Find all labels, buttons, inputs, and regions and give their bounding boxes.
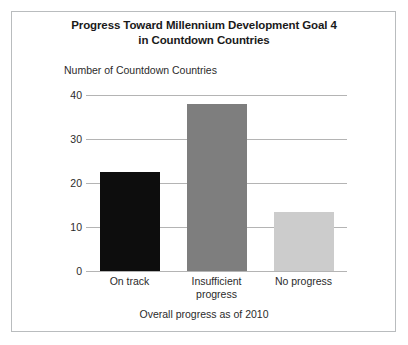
x-tick-label-line: No progress (260, 275, 347, 288)
footer-caption: Overall progress as of 2010 (24, 308, 384, 320)
x-tick-label: On track (86, 275, 173, 288)
x-tick-label: Insufficientprogress (173, 275, 260, 300)
x-tick-label-line: On track (86, 275, 173, 288)
x-tick-label: No progress (260, 275, 347, 288)
bar-no-progress[interactable] (274, 212, 334, 271)
y-axis-title: Number of Countdown Countries (64, 64, 217, 76)
bar-on-track[interactable] (100, 172, 160, 271)
chart-title: Progress Toward Millennium Development G… (24, 18, 384, 48)
gridline-0 (86, 271, 347, 272)
y-tick-label: 0 (48, 265, 82, 277)
x-tick-label-line: Insufficient (173, 275, 260, 288)
plot-area: On trackInsufficientprogressNo progress (86, 95, 347, 271)
chart-title-line-1: Progress Toward Millennium Development G… (71, 19, 337, 31)
x-tick-label-line: progress (173, 288, 260, 301)
y-tick-label: 10 (48, 221, 82, 233)
y-tick-label: 30 (48, 133, 82, 145)
y-tick-label: 20 (48, 177, 82, 189)
bar-insufficient-progress[interactable] (187, 104, 247, 271)
chart-figure: Progress Toward Millennium Development G… (0, 0, 408, 345)
chart-title-line-2: in Countdown Countries (24, 33, 384, 48)
y-tick-label: 40 (48, 89, 82, 101)
y-axis-tick-labels: 010203040 (44, 95, 82, 271)
gridline-40 (86, 95, 347, 96)
